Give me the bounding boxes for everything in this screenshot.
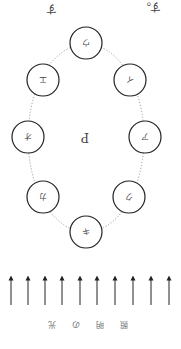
light-label: 照 明 の 光: [48, 320, 128, 331]
orbit-circle: キ: [70, 216, 102, 248]
light-char-2: 明: [96, 320, 104, 331]
circle-label: オ: [24, 132, 32, 141]
light-char-1: 照: [120, 320, 128, 331]
circle-label: エ: [39, 75, 47, 84]
circle-label: キ: [82, 227, 90, 236]
orbit-circle: オ: [12, 121, 44, 153]
circle-label: イ: [126, 75, 134, 84]
circle-label: カ: [39, 192, 47, 201]
circle-label: ウ: [82, 38, 90, 47]
light-char-3: の: [72, 320, 80, 331]
orbit-circle: ク: [113, 181, 145, 213]
light-char-4: 光: [48, 320, 56, 331]
diagram: ウイアクキカオエ: [0, 0, 181, 349]
circle-label: ク: [125, 192, 133, 201]
circle-label: ア: [141, 132, 149, 141]
top-text-right: す。: [140, 0, 161, 16]
orbit-circle: カ: [27, 181, 59, 213]
center-label-p: P: [81, 130, 89, 144]
orbit-circle: イ: [114, 64, 146, 96]
top-text-left: す: [46, 2, 57, 18]
orbit-circle: エ: [27, 64, 59, 96]
orbit-circle: ア: [129, 121, 161, 153]
orbit-circle: ウ: [70, 27, 102, 59]
